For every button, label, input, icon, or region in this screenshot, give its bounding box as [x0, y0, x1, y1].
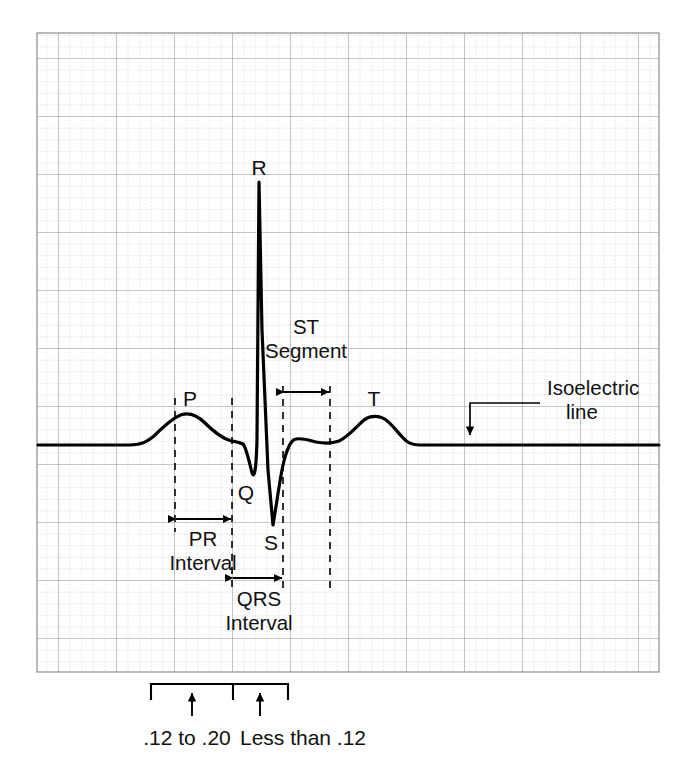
st-segment-label-line2: Segment [265, 339, 347, 362]
isoelectric-label-line2: line [566, 400, 598, 423]
q-wave-label: Q [238, 481, 254, 504]
t-wave-label: T [368, 387, 381, 410]
pr-interval-label-line2: Interval [169, 551, 236, 574]
isoelectric-label-line1: Isoelectric [547, 376, 639, 399]
ekg-figure: PR Interval QRS Interval ST Segment Isoe… [0, 0, 685, 775]
qrs-interval-label-line2: Interval [225, 611, 292, 634]
ekg-diagram-canvas: PR Interval QRS Interval ST Segment Isoe… [0, 0, 685, 775]
s-wave-label: S [264, 531, 278, 554]
qrs-interval-label-line1: QRS [237, 587, 281, 610]
pr-duration-value: .12 to .20 [143, 726, 231, 749]
r-wave-label: R [251, 156, 266, 179]
ekg-graph-paper [37, 33, 659, 672]
pr-interval-label-line1: PR [189, 527, 217, 550]
qrs-duration-value: Less than .12 [240, 726, 366, 749]
duration-values: .12 to .20 Less than .12 [143, 726, 366, 749]
st-segment-label-line1: ST [293, 315, 320, 338]
p-wave-label: P [183, 387, 197, 410]
